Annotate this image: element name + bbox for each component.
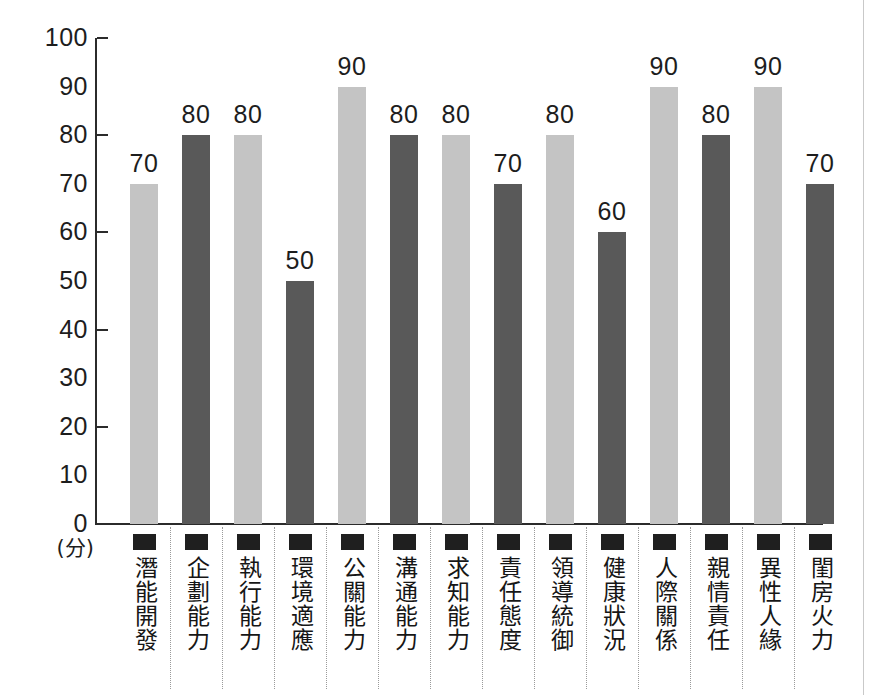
category-item: 領導統御 (534, 534, 586, 656)
bar-value-label: 90 (738, 54, 798, 79)
y-tick-label: 80 (18, 122, 88, 147)
y-tick-mark (97, 37, 108, 39)
y-tick-label: 30 (18, 365, 88, 390)
category-label: 責任態度 (496, 556, 521, 652)
y-tick-label: 50 (18, 268, 88, 293)
bar-value-label: 50 (270, 248, 330, 273)
square-marker-icon (601, 534, 624, 550)
bar (650, 87, 678, 524)
category-item: 環境適應 (274, 534, 326, 656)
square-marker-icon (185, 534, 208, 550)
bar (754, 87, 782, 524)
category-label: 閨房火力 (808, 556, 833, 652)
square-marker-icon (549, 534, 572, 550)
bar-value-label: 80 (218, 102, 278, 127)
category-item: 求知能力 (430, 534, 482, 656)
category-label: 企劃能力 (184, 556, 209, 652)
bar-value-label: 80 (426, 102, 486, 127)
y-tick-label: 0 (18, 511, 88, 536)
y-tick-label: 70 (18, 171, 88, 196)
category-label: 潛能開發 (132, 556, 157, 652)
square-marker-icon (289, 534, 312, 550)
y-tick-label: 40 (18, 317, 88, 342)
bar (546, 135, 574, 524)
category-label: 領導統御 (548, 556, 573, 652)
bar (182, 135, 210, 524)
category-label: 異性人緣 (756, 556, 781, 652)
bar-chart: 0102030405060708090100 (分) 7080805090808… (0, 0, 871, 695)
category-label: 公關能力 (340, 556, 365, 652)
square-marker-icon (757, 534, 780, 550)
category-item: 人際關係 (638, 534, 690, 656)
category-item: 公關能力 (326, 534, 378, 656)
square-marker-icon (809, 534, 832, 550)
bar (806, 184, 834, 524)
y-tick-label: 20 (18, 414, 88, 439)
bar (130, 184, 158, 524)
category-item: 親情責任 (690, 534, 742, 656)
bar-value-label: 80 (530, 102, 590, 127)
square-marker-icon (341, 534, 364, 550)
square-marker-icon (393, 534, 416, 550)
chart-page: 0102030405060708090100 (分) 7080805090808… (0, 0, 871, 695)
category-item: 執行能力 (222, 534, 274, 656)
category-label: 環境適應 (288, 556, 313, 652)
bar (598, 232, 626, 524)
square-marker-icon (705, 534, 728, 550)
square-marker-icon (653, 534, 676, 550)
bar-value-label: 80 (166, 102, 226, 127)
category-item: 責任態度 (482, 534, 534, 656)
category-label: 求知能力 (444, 556, 469, 652)
bar (442, 135, 470, 524)
bar (286, 281, 314, 524)
bar (338, 87, 366, 524)
category-item: 異性人緣 (742, 534, 794, 656)
bar (390, 135, 418, 524)
y-tick-label: 90 (18, 74, 88, 99)
bar-value-label: 80 (686, 102, 746, 127)
square-marker-icon (497, 534, 520, 550)
category-item: 潛能開發 (118, 534, 170, 656)
y-tick-label: 10 (18, 462, 88, 487)
category-label: 執行能力 (236, 556, 261, 652)
y-tick-label: 100 (18, 25, 88, 50)
bar-value-label: 60 (582, 199, 642, 224)
y-axis-line (95, 38, 97, 525)
bar (234, 135, 262, 524)
category-label: 人際關係 (652, 556, 677, 652)
category-item: 閨房火力 (794, 534, 846, 656)
bar-value-label: 80 (374, 102, 434, 127)
y-axis-unit-label: (分) (14, 536, 94, 560)
y-tick-mark (97, 329, 108, 331)
y-tick-label: 60 (18, 219, 88, 244)
bar-value-label: 90 (634, 54, 694, 79)
y-tick-mark (97, 426, 108, 428)
bar-value-label: 70 (790, 151, 850, 176)
category-label: 親情責任 (704, 556, 729, 652)
category-label: 溝通能力 (392, 556, 417, 652)
category-label: 健康狀況 (600, 556, 625, 652)
bar (702, 135, 730, 524)
y-tick-mark (97, 134, 108, 136)
category-item: 企劃能力 (170, 534, 222, 656)
category-item: 溝通能力 (378, 534, 430, 656)
category-item: 健康狀況 (586, 534, 638, 656)
bar (494, 184, 522, 524)
square-marker-icon (237, 534, 260, 550)
square-marker-icon (445, 534, 468, 550)
bar-value-label: 90 (322, 54, 382, 79)
bar-value-label: 70 (114, 151, 174, 176)
y-tick-mark (97, 231, 108, 233)
bar-value-label: 70 (478, 151, 538, 176)
square-marker-icon (133, 534, 156, 550)
